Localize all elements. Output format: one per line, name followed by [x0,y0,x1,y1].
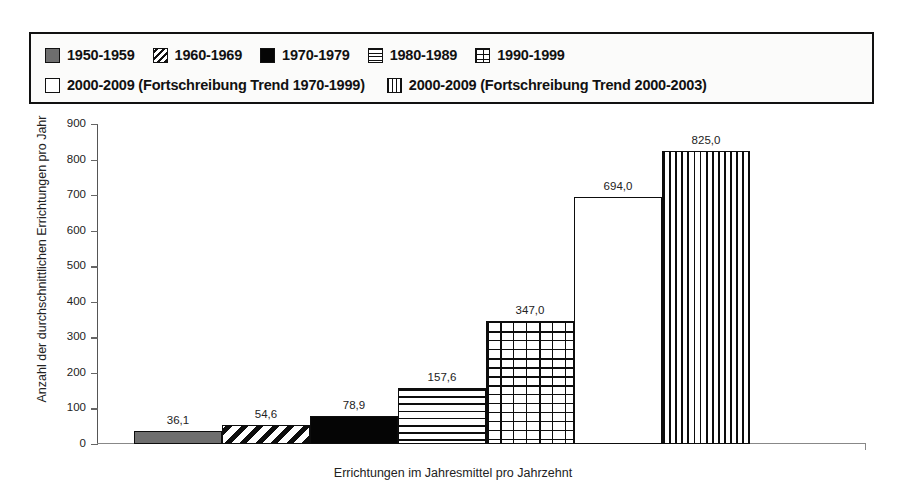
legend-label-1990-1999: 1990-1999 [497,47,565,63]
bar-value-label: 78,9 [310,399,398,411]
legend-swatch-horizontal-icon [368,48,383,63]
y-axis-tick-label: 900 [40,117,86,129]
legend-swatch-solid-black-icon [260,48,275,63]
legend-item-1950-1959: 1950-1959 [45,47,135,63]
legend-swatch-diagonal-icon [153,48,168,63]
bar-2000-2009 [574,197,662,444]
y-axis-tick-label: 700 [40,188,86,200]
legend-row-1: 1950-1959 1960-1969 1970-1979 1980-1989 … [45,40,862,70]
legend-item-1990-1999: 1990-1999 [475,47,565,63]
y-axis-tick-label: 400 [40,295,86,307]
legend-item-2000-2009-trend-1970-1999: 2000-2009 (Fortschreibung Trend 1970-199… [45,77,365,93]
bar-value-label: 694,0 [574,180,662,192]
legend-label-2000-2009-trend-2000-2003: 2000-2009 (Fortschreibung Trend 2000-200… [409,77,707,93]
bar-2000-2009 [662,151,750,444]
legend-row-2: 2000-2009 (Fortschreibung Trend 1970-199… [45,70,862,100]
bar-1970-1979 [310,416,398,444]
bar-1980-1989 [398,388,486,444]
bar-value-label: 54,6 [222,408,310,420]
y-axis-tick [91,444,98,445]
bar-1960-1969 [222,425,310,444]
chart-legend: 1950-1959 1960-1969 1970-1979 1980-1989 … [29,32,874,104]
legend-item-2000-2009-trend-2000-2003: 2000-2009 (Fortschreibung Trend 2000-200… [387,77,707,93]
y-axis-tick-label: 100 [40,401,86,413]
y-axis-tick-label: 600 [40,224,86,236]
bar-1990-1999 [486,321,574,444]
bar-value-label: 825,0 [662,134,750,146]
legend-label-1980-1989: 1980-1989 [390,47,458,63]
bar-value-label: 157,6 [398,371,486,383]
bar-1950-1959 [134,431,222,444]
y-axis-tick-label: 500 [40,259,86,271]
legend-item-1970-1979: 1970-1979 [260,47,350,63]
x-axis-title: Errichtungen im Jahresmittel pro Jahrzeh… [0,466,906,480]
bar-chart: Anzahl der durchschnittlichen Errichtung… [0,110,906,460]
bar-value-label: 347,0 [486,304,574,316]
legend-label-1970-1979: 1970-1979 [282,47,350,63]
x-axis-end-tick [865,443,866,450]
y-axis-tick-label: 200 [40,366,86,378]
legend-swatch-empty-icon [45,78,60,93]
legend-swatch-vertical-icon [387,78,402,93]
legend-swatch-brick-icon [475,48,490,63]
legend-swatch-solid-gray-icon [45,48,60,63]
legend-label-1960-1969: 1960-1969 [175,47,243,63]
plot-area: 36,154,678,9157,6347,0694,0825,0 [97,124,866,444]
legend-item-1980-1989: 1980-1989 [368,47,458,63]
legend-label-2000-2009-trend-1970-1999: 2000-2009 (Fortschreibung Trend 1970-199… [67,77,365,93]
bar-value-label: 36,1 [134,414,222,426]
y-axis-tick-label: 800 [40,153,86,165]
y-axis-tick-label: 300 [40,330,86,342]
y-axis-tick-label: 0 [40,437,86,449]
legend-label-1950-1959: 1950-1959 [67,47,135,63]
legend-item-1960-1969: 1960-1969 [153,47,243,63]
